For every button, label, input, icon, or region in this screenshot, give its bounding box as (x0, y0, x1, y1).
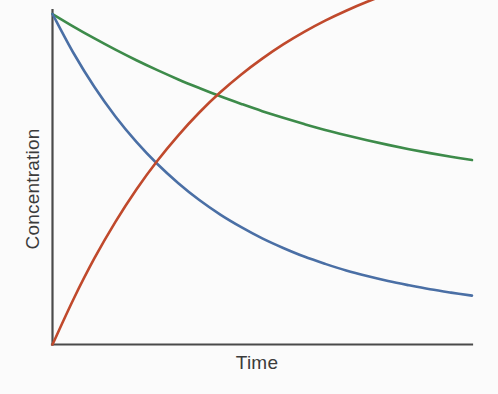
series-line-product-growth (53, 0, 473, 344)
y-axis-label: Concentration (22, 109, 44, 269)
series-group (53, 0, 473, 344)
series-line-fast-decay (53, 14, 473, 296)
chart-plot-area (0, 0, 498, 394)
chart-figure: Time Concentration (0, 0, 498, 394)
x-axis-label: Time (0, 352, 498, 374)
series-line-slow-decay (53, 14, 473, 160)
